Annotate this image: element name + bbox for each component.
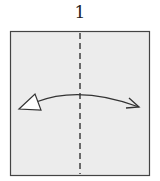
origami-diagram: [0, 0, 160, 181]
